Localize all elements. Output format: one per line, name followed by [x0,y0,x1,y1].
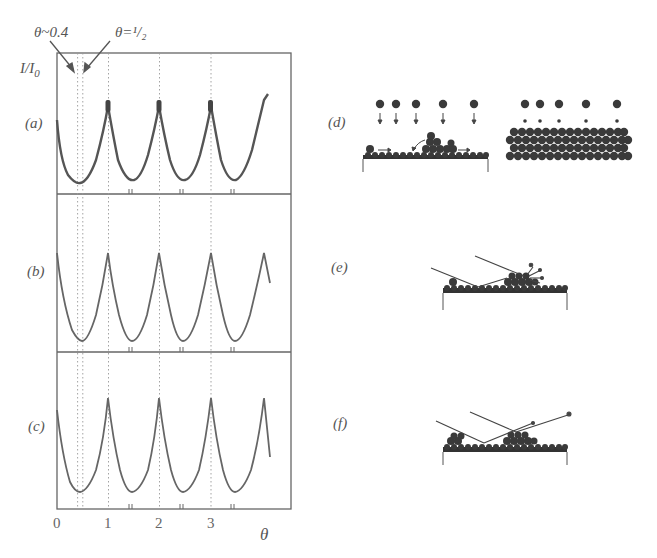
schematic-e: (e) [331,256,568,310]
oscillation-plots: I/I0 θ~0.4 θ=¹/₂ (a) (b) (c) 0 1 2 3 θ [19,24,291,544]
curve-b [57,253,270,341]
falling-atoms [376,100,478,108]
figure: I/I0 θ~0.4 θ=¹/₂ (a) (b) (c) 0 1 2 3 θ (… [0,0,657,558]
dotted-guides [78,53,211,509]
minor-ticks [129,189,234,509]
panel-label-a: (a) [25,115,43,132]
xtick-0: 0 [53,515,61,531]
y-axis-label: I/I0 [19,60,40,79]
annotation-arrows [50,41,110,72]
down-arrows [378,113,476,124]
xtick-1: 1 [104,515,112,531]
panel-label-e: (e) [331,259,348,276]
schematic-f: (f) [333,412,571,465]
curve-a [57,94,268,183]
schematic-d: (d) [328,100,632,172]
annotation-theta-04: θ~0.4 [34,24,69,40]
plot-frame [57,53,291,509]
curve-c [57,398,270,492]
panel-label-f: (f) [333,415,347,432]
annotation-theta-half: θ=¹/₂ [115,24,146,40]
xtick-2: 2 [155,515,163,531]
xtick-3: 3 [207,515,215,531]
curve-a-peaks [106,100,214,112]
panel-label-b: (b) [27,263,45,280]
x-axis-label: θ [260,525,268,544]
layered-film [506,100,632,160]
panel-label-d: (d) [328,114,346,131]
panel-label-c: (c) [28,418,45,435]
